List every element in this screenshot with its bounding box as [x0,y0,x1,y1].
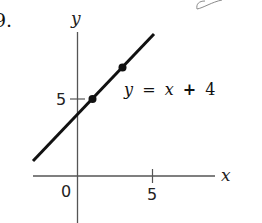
x-axis-label: x [221,165,231,185]
eq-equals: = [142,80,155,99]
graph-figure: 9. y x 5 5 0 y = x + 4 [0,0,262,223]
y-tick-label: 5 [56,90,66,109]
pen-mark-icon [197,0,222,9]
point-3-7 [119,64,127,72]
eq-plus: + [183,80,196,99]
point-1-5 [89,95,97,103]
origin-label: 0 [61,182,71,201]
y-axis-label: y [70,8,81,28]
equation-label: y = x + 4 [123,80,215,99]
eq-four: 4 [205,80,215,99]
x-tick-label: 5 [147,185,157,204]
eq-y: y [123,80,134,99]
problem-number: 9. [0,9,12,31]
eq-x: x [165,80,174,99]
